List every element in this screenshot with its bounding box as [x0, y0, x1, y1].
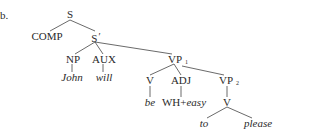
node-np: NP [66, 54, 80, 65]
easy-word: easy [186, 96, 206, 108]
vp1-subscript: 1 [185, 59, 188, 65]
node-vp2: VP2 [219, 75, 239, 89]
node-comp: COMP [31, 31, 62, 42]
node-s-bar: S′ [91, 31, 100, 44]
vp2-subscript: 2 [236, 80, 239, 86]
leaf-be: be [145, 97, 155, 108]
leaf-please: please [244, 118, 272, 129]
node-vp2-label: VP [219, 74, 233, 86]
leaf-to: to [200, 118, 209, 129]
node-aux: AUX [92, 54, 116, 65]
node-v1: V [146, 75, 154, 86]
prime-mark: ′ [98, 31, 100, 42]
node-v2: V [223, 97, 231, 108]
leaf-john: John [61, 72, 82, 83]
node-adj: ADJ [171, 75, 191, 86]
leaf-wh-easy: WH+easy [162, 97, 206, 108]
leaf-will: will [96, 72, 113, 83]
wh-prefix: WH+ [162, 96, 187, 108]
node-vp1: VP1 [168, 54, 188, 68]
node-s: S [67, 9, 73, 20]
node-vp1-label: VP [168, 53, 182, 65]
node-s-bar-label: S [91, 32, 97, 44]
